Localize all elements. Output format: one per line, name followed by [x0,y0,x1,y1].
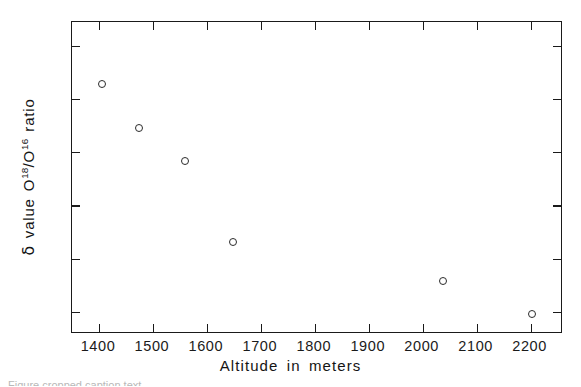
y-axis-tick-right [553,312,561,313]
x-axis-tick [261,324,262,332]
x-axis-title: Altitude in meters [0,357,581,374]
x-axis-tick-label: 1900 [350,338,385,354]
data-point [98,80,106,88]
superscript-18: 18 [19,167,30,178]
data-point [135,124,143,132]
y-axis-tick [72,99,80,100]
x-axis-tick [531,324,532,332]
x-axis-tick-label: 2100 [458,338,493,354]
data-point [528,310,536,318]
x-axis-tick [207,324,208,332]
x-axis-tick-top [369,22,370,30]
x-axis-tick-label: 2200 [512,338,547,354]
x-axis-tick [423,324,424,332]
y-axis-tick-right [553,205,561,206]
y-axis-tick-right [553,259,561,260]
x-axis-tick-top [207,22,208,30]
x-axis-tick-label: 2000 [404,338,439,354]
figure-scatter-isotope-altitude: δ value O18/O16 ratio 140015001600170018… [0,0,581,387]
y-axis-title-ratio: ratio [20,98,37,131]
y-axis-tick-right [553,152,561,153]
y-axis-title-oxygen-18: O [20,179,37,191]
data-point [181,157,189,165]
x-axis-tick-top [99,22,100,30]
x-axis-tick-top [261,22,262,30]
x-axis-tick-label: 1500 [135,338,170,354]
x-axis-tick [315,324,316,332]
y-axis-title-value: value [20,198,37,238]
x-axis-tick-top [477,22,478,30]
y-axis-tick [72,205,80,206]
data-point [229,238,237,246]
x-axis-tick-top [315,22,316,30]
x-axis-tick-top [423,22,424,30]
x-axis-tick-top [531,22,532,30]
y-axis-tick [72,259,80,260]
y-axis-title-slash: / [20,162,37,167]
x-axis-tick-top [153,22,154,30]
x-axis-tick-label: 1800 [296,338,331,354]
x-axis-tick [153,324,154,332]
delta-symbol: δ [19,245,38,255]
data-point [439,277,447,285]
y-axis-tick [72,152,80,153]
x-axis-tick-label: 1600 [189,338,224,354]
x-axis-tick [369,324,370,332]
y-axis-tick [72,46,80,47]
y-axis-tick-right [553,99,561,100]
x-axis-tick [477,324,478,332]
y-axis-tick [72,312,80,313]
y-axis-title-oxygen-16: O [20,150,37,162]
y-axis-tick-right [553,46,561,47]
figure-caption-sliver: Figure cropped caption text [8,379,238,386]
x-axis-tick [99,324,100,332]
y-axis-title-container: δ value O18/O16 ratio [14,21,42,333]
superscript-16: 16 [19,139,30,150]
x-axis-tick-label: 1700 [243,338,278,354]
x-axis-tick-label: 1400 [81,338,116,354]
y-axis-title: δ value O18/O16 ratio [19,98,38,255]
plot-area [71,21,562,333]
